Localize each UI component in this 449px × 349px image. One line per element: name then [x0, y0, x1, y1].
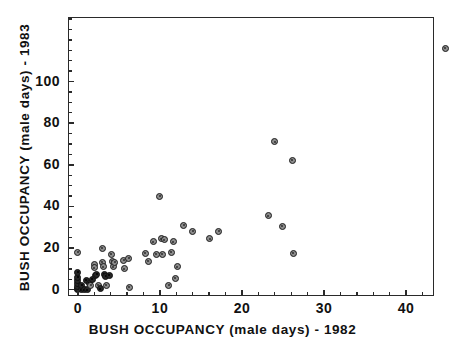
- y-tick-minor: [68, 195, 72, 196]
- y-tick-major: [68, 81, 74, 82]
- x-tick-minor: [258, 292, 259, 296]
- x-tick-minor: [291, 292, 292, 296]
- x-tick-label: 40: [386, 300, 426, 316]
- y-tick-minor: [68, 39, 72, 40]
- y-tick-minor: [68, 154, 72, 155]
- x-tick-label: 10: [140, 300, 180, 316]
- y-tick-minor: [68, 143, 72, 144]
- y-tick-minor: [68, 216, 72, 217]
- x-tick-minor: [208, 292, 209, 296]
- y-tick-minor: [68, 175, 72, 176]
- x-tick-minor: [356, 292, 357, 296]
- x-tick-minor: [126, 292, 127, 296]
- x-tick-minor: [110, 292, 111, 296]
- y-tick-minor: [68, 91, 72, 92]
- y-tick-minor: [68, 185, 72, 186]
- x-tick-minor: [373, 292, 374, 296]
- x-tick-minor: [307, 292, 308, 296]
- x-tick-minor: [192, 292, 193, 296]
- y-tick-major: [68, 247, 74, 248]
- y-tick-minor: [68, 237, 72, 238]
- x-tick-minor: [143, 292, 144, 296]
- x-tick-minor: [225, 292, 226, 296]
- x-tick-major: [323, 290, 324, 296]
- y-tick-minor: [68, 279, 72, 280]
- y-tick-major: [68, 206, 74, 207]
- x-tick-label: 20: [222, 300, 262, 316]
- y-tick-major: [68, 122, 74, 123]
- data-point: [442, 45, 449, 52]
- x-tick-label: 30: [304, 300, 344, 316]
- x-tick-minor: [176, 292, 177, 296]
- x-tick-minor: [340, 292, 341, 296]
- plot-frame: [68, 17, 434, 296]
- y-tick-minor: [68, 133, 72, 134]
- x-tick-major: [77, 290, 78, 296]
- y-tick-minor: [68, 258, 72, 259]
- y-tick-minor: [68, 50, 72, 51]
- x-tick-minor: [422, 292, 423, 296]
- y-tick-minor: [68, 227, 72, 228]
- y-tick-minor: [68, 29, 72, 30]
- y-tick-minor: [68, 268, 72, 269]
- y-tick-minor: [68, 60, 72, 61]
- y-tick-major: [68, 164, 74, 165]
- x-tick-minor: [94, 292, 95, 296]
- x-tick-minor: [389, 292, 390, 296]
- x-tick-major: [405, 290, 406, 296]
- y-tick-minor: [68, 102, 72, 103]
- x-tick-major: [241, 290, 242, 296]
- y-tick-major: [68, 289, 74, 290]
- x-axis-title: BUSH OCCUPANCY (male days) - 1982: [0, 322, 445, 337]
- x-tick-label: 0: [58, 300, 98, 316]
- y-axis-title: BUSH OCCUPANCY (male days) - 1983: [17, 0, 32, 318]
- y-tick-minor: [68, 112, 72, 113]
- x-tick-major: [159, 290, 160, 296]
- y-tick-minor: [68, 70, 72, 71]
- x-tick-minor: [274, 292, 275, 296]
- y-tick-minor: [68, 18, 72, 19]
